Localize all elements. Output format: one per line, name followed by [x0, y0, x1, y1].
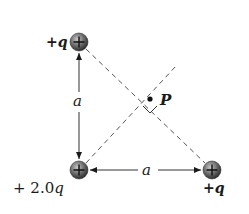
- diagonal-dashed-line-2: [86, 66, 176, 163]
- right-angle-marker: [143, 106, 157, 113]
- point-p-dot: [147, 96, 152, 101]
- vertical-dimension-label: a: [73, 92, 82, 110]
- charge-bottom-right-label: +q: [203, 180, 225, 196]
- point-p-label: P: [159, 91, 172, 109]
- horizontal-dimension-label: a: [142, 161, 151, 179]
- charge-bottom-left-label: + 2.0q: [13, 179, 64, 197]
- charge-bottom-right: [203, 161, 221, 179]
- diagonal-dashed-line-1: [86, 49, 205, 163]
- charge-bottom-left: [70, 161, 88, 179]
- charge-diagram: a a P +q + 2.0q +q: [0, 0, 249, 214]
- charge-top-left: [70, 33, 88, 51]
- charge-top-left-label: +q: [46, 34, 68, 50]
